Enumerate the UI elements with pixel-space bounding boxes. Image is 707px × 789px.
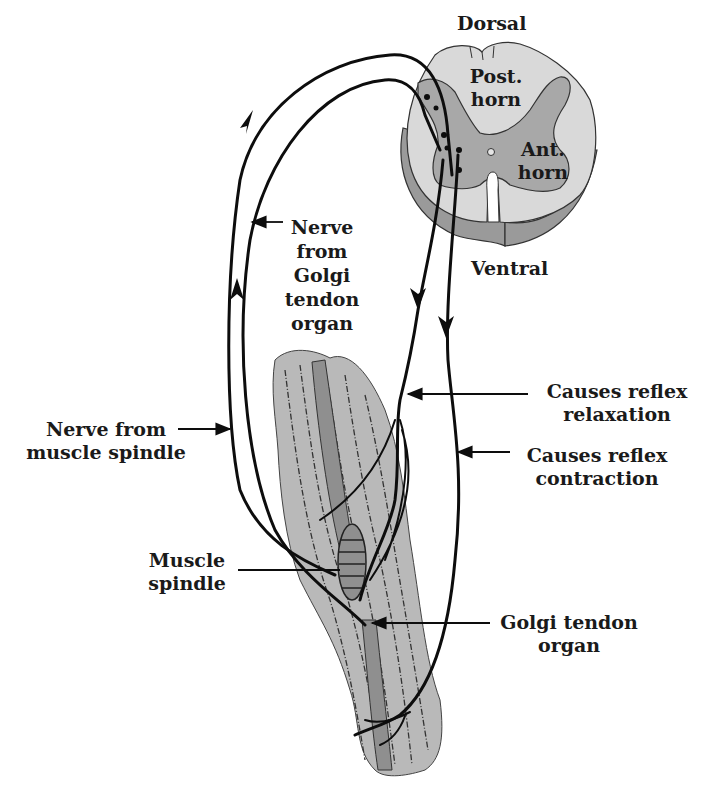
ventral-fissure	[487, 172, 499, 222]
anterior-horn-label: Ant. horn	[513, 138, 573, 184]
central-canal	[488, 149, 495, 156]
arrow-icon	[230, 278, 244, 300]
arrow-icon	[410, 288, 426, 310]
muscle-spindle-label: Muscle spindle	[143, 549, 231, 595]
ventral-label: Ventral	[471, 257, 548, 280]
nerve-spindle-label: Nerve from muscle spindle	[18, 418, 194, 464]
posterior-horn-label: Post. horn	[461, 65, 531, 111]
arrow-icon	[240, 110, 253, 134]
contraction-label: Causes reflex contraction	[517, 444, 677, 490]
arrow-icon	[438, 316, 454, 338]
relaxation-label: Causes reflex relaxation	[537, 380, 697, 426]
nerve-golgi-label: Nerve from Golgi tendon organ	[282, 215, 362, 335]
golgi-tendon-organ-label: Golgi tendon organ	[494, 611, 644, 657]
dorsal-label: Dorsal	[457, 12, 526, 35]
